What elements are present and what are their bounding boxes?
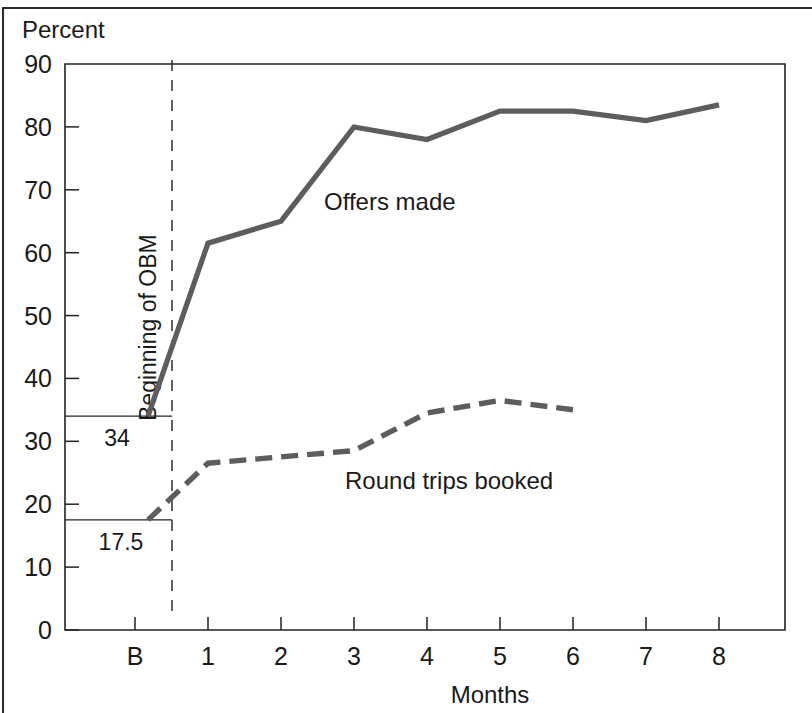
x-tick-label-2: 2 [274, 642, 288, 670]
y-tick-label-70: 70 [24, 176, 52, 204]
chart-figure: Percent 0 10 20 30 40 50 60 70 80 90 [0, 0, 812, 713]
y-tick-label-40: 40 [24, 364, 52, 392]
chart-background [0, 0, 812, 713]
x-tick-label-5: 5 [493, 642, 507, 670]
line-chart-svg: Percent 0 10 20 30 40 50 60 70 80 90 [0, 0, 812, 713]
y-tick-label-90: 90 [24, 50, 52, 78]
y-tick-label-20: 20 [24, 490, 52, 518]
value-label-34: 34 [104, 425, 130, 451]
x-axis-title: Months [451, 681, 530, 708]
y-axis-title: Percent [22, 16, 105, 43]
x-tick-label-4: 4 [420, 642, 434, 670]
value-label-17-5: 17.5 [99, 529, 144, 555]
series-label-offers-made: Offers made [324, 188, 456, 215]
series-label-round-trips-booked: Round trips booked [345, 467, 553, 494]
x-tick-label-8: 8 [712, 642, 726, 670]
x-tick-label-3: 3 [347, 642, 361, 670]
y-tick-label-50: 50 [24, 302, 52, 330]
y-tick-label-30: 30 [24, 427, 52, 455]
y-tick-label-80: 80 [24, 113, 52, 141]
x-tick-label-6: 6 [566, 642, 580, 670]
y-tick-label-60: 60 [24, 239, 52, 267]
y-tick-label-10: 10 [24, 553, 52, 581]
x-tick-label-B: B [127, 642, 144, 670]
y-tick-label-0: 0 [38, 616, 52, 644]
x-tick-label-1: 1 [201, 642, 215, 670]
x-tick-label-7: 7 [639, 642, 653, 670]
